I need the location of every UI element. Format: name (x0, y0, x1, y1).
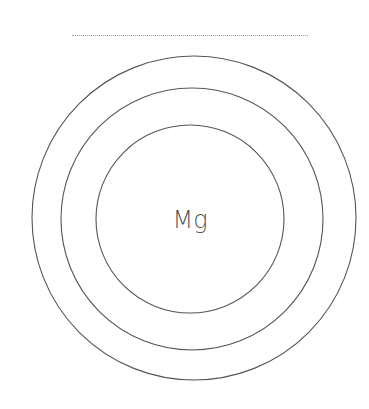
atom-shell-diagram: Mg (0, 0, 369, 409)
element-symbol: Mg (172, 206, 207, 234)
